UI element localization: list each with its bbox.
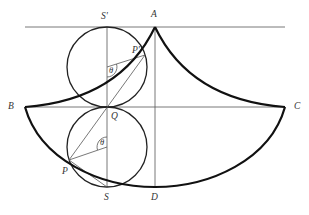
label-s-prime: S' [101, 11, 109, 21]
lower-radius-to-p [69, 147, 107, 160]
label-p: P [61, 166, 68, 176]
label-theta-upper: θ [109, 65, 113, 75]
label-theta-lower: θ [100, 137, 104, 147]
cycloid-diagram: S' A P' θ B C Q θ P S D [0, 0, 309, 215]
label-p-prime: P' [131, 45, 141, 55]
cycloid-arc-a-to-c [155, 27, 285, 107]
label-b: B [8, 101, 14, 111]
label-c: C [294, 101, 301, 111]
label-d: D [150, 192, 158, 202]
label-s: S [104, 192, 109, 202]
label-a: A [150, 9, 157, 19]
label-q: Q [111, 111, 118, 121]
